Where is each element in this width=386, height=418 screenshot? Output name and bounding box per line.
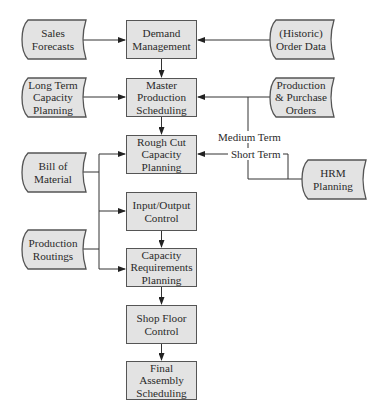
- master-production-scheduling-label: MasterProductionScheduling: [136, 79, 186, 116]
- hrm-planning-label: HRMPlanning: [302, 160, 364, 199]
- capacity-requirements-planning-box: CapacityRequirementsPlanning: [126, 248, 197, 287]
- bill-of-material-label: Bill ofMaterial: [22, 153, 84, 192]
- rough-cut-capacity-planning-label: Rough CutCapacityPlanning: [137, 136, 186, 173]
- demand-management-label: DemandManagement: [132, 27, 190, 52]
- master-production-scheduling-box: MasterProductionScheduling: [126, 78, 197, 117]
- capacity-requirements-planning-label: CapacityRequirementsPlanning: [130, 249, 192, 286]
- final-assembly-scheduling-box: FinalAssemblyScheduling: [126, 361, 197, 400]
- final-assembly-scheduling-label: FinalAssemblyScheduling: [136, 362, 186, 399]
- production-purchase-orders-label: Production& PurchaseOrders: [270, 78, 332, 117]
- medium-term-label: Medium Term: [217, 131, 282, 143]
- long-term-capacity-planning-label: Long TermCapacityPlanning: [22, 78, 84, 117]
- short-term-label: Short Term: [230, 148, 281, 160]
- sales-forecasts-label: SalesForecasts: [22, 20, 84, 59]
- shop-floor-control-box: Shop FloorControl: [126, 305, 197, 344]
- rough-cut-capacity-planning-box: Rough CutCapacityPlanning: [126, 135, 197, 174]
- historic-order-data-label: (Historic)Order Data: [270, 20, 332, 59]
- shop-floor-control-label: Shop FloorControl: [136, 312, 186, 337]
- input-output-control-label: Input/OutputControl: [133, 199, 191, 224]
- production-routings-label: ProductionRoutings: [22, 230, 84, 269]
- demand-management-box: DemandManagement: [126, 20, 197, 59]
- input-output-control-box: Input/OutputControl: [126, 192, 197, 231]
